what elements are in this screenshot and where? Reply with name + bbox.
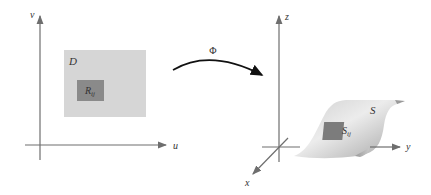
phi-arrow (173, 60, 262, 75)
mapping-arrow: Φ (173, 45, 262, 75)
u-axis-label: u (173, 140, 178, 151)
surface-mapping-diagram: v u D Rij Φ z y x S Sij (0, 0, 431, 195)
x-axis-label: x (244, 177, 250, 188)
uv-plane: v u D Rij (25, 9, 178, 160)
v-axis-label: v (30, 9, 35, 20)
region-d-label: D (68, 55, 77, 67)
patch-sij (322, 122, 344, 140)
z-axis-label: z (284, 11, 289, 22)
xyz-space: z y x S Sij (244, 11, 411, 188)
phi-label: Φ (209, 45, 216, 56)
x-axis (253, 138, 288, 174)
y-axis-label: y (405, 141, 411, 152)
surface-s-label: S (370, 104, 376, 116)
